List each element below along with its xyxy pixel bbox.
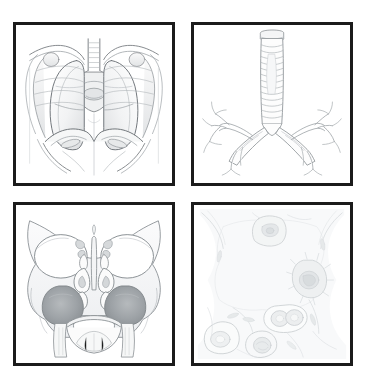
- panel-thorax[interactable]: Thoracic cavity with lungs: [13, 22, 175, 186]
- histology-illustration: [194, 205, 350, 363]
- illustration-grid: Thoracic cavity with lungs: [13, 22, 353, 366]
- panel-sinus[interactable]: Coronal section of paranasal sinuses: [13, 202, 175, 366]
- thorax-illustration: [16, 25, 172, 183]
- sinus-illustration: [16, 205, 172, 363]
- trachea-illustration: [194, 25, 350, 183]
- panel-histology[interactable]: Lung tissue histology: [191, 202, 353, 366]
- panel-trachea[interactable]: Trachea and bronchial tree: [191, 22, 353, 186]
